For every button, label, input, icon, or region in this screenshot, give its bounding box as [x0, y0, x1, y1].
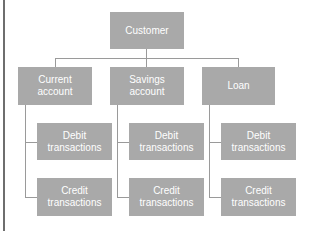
connector — [146, 49, 147, 58]
node-current-debit: Debit transactions — [37, 123, 112, 160]
connector — [209, 197, 221, 198]
connector — [55, 58, 56, 67]
diagram-canvas: Customer Current account Savings account… — [0, 0, 313, 231]
node-loan: Loan — [202, 67, 275, 105]
node-savings-credit: Credit transactions — [129, 178, 204, 216]
connector — [146, 58, 147, 67]
connector — [117, 142, 129, 143]
node-current-credit: Credit transactions — [37, 178, 112, 216]
connector — [25, 197, 37, 198]
connector — [117, 105, 118, 197]
connector — [117, 197, 129, 198]
node-savings-debit: Debit transactions — [129, 123, 204, 160]
node-current-account: Current account — [18, 67, 92, 105]
node-loan-credit: Credit transactions — [221, 178, 296, 216]
left-border — [3, 0, 5, 231]
connector — [209, 105, 210, 197]
node-loan-debit: Debit transactions — [221, 123, 296, 160]
node-customer: Customer — [110, 12, 184, 49]
node-savings-account: Savings account — [110, 67, 184, 105]
connector — [209, 142, 221, 143]
connector — [25, 142, 37, 143]
connector — [238, 58, 239, 67]
connector — [55, 58, 239, 59]
connector — [25, 105, 26, 197]
